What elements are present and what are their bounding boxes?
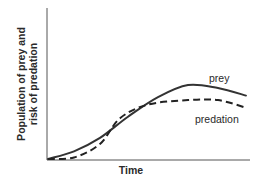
prey-annotation: prey	[209, 72, 230, 84]
predation-annotation: predation	[195, 113, 239, 125]
y-axis-label-line2: risk of predation	[27, 43, 39, 125]
y-axis-label-line1: Population of prey and	[15, 27, 27, 141]
chart: Population of prey and risk of predation…	[0, 0, 264, 182]
x-axis-label: Time	[119, 164, 143, 176]
